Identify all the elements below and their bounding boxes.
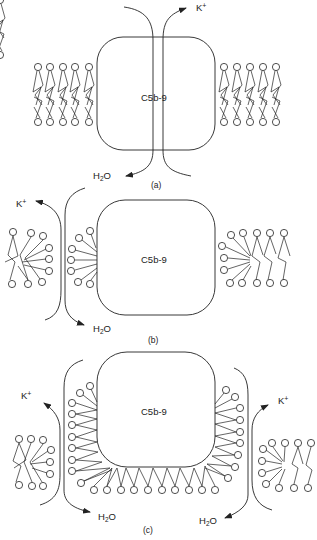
water-label-left-c: H2O [98,511,116,523]
water-flow-arrow-left-c [64,360,90,512]
water-flow-arrow-b [65,188,85,325]
k-ion-label-a: K+ [196,2,206,13]
lipid-cluster-right-b [218,229,290,286]
lipid-cluster-left-b [5,228,53,287]
k-ion-label-b: K+ [16,198,26,209]
caption-b: (b) [148,335,159,345]
caption-c: (c) [143,525,153,535]
water-label-right-c: H2O [199,515,217,527]
lipid-bilayer-left-a [0,0,94,126]
panel-a: C5b-9 K+ H2O (a) [0,0,281,190]
panel-c: C5b-9 K+ K+ H2O H2O (c) [13,352,315,535]
complex-label-c: C5b-9 [141,406,167,417]
lipid-cluster-right-c [258,439,314,491]
panel-b: C5b-9 K+ H2O (b) [5,188,290,345]
lipid-bilayer-right-a [219,63,281,125]
water-label-a: H2O [93,170,111,182]
lipid-coat-c [68,382,243,493]
membrane-attack-complex-diagram: C5b-9 K+ H2O (a) [0,0,317,540]
lipid-fan-left-b [67,227,97,287]
k-ion-label-right-c: K+ [278,395,288,406]
lipid-cluster-left-c [13,435,55,489]
k-ion-label-left-c: K+ [21,390,31,401]
potassium-flow-arrow-a [163,8,191,176]
caption-a: (a) [151,180,162,190]
complex-label-b: C5b-9 [141,254,167,265]
water-label-b: H2O [93,323,111,335]
